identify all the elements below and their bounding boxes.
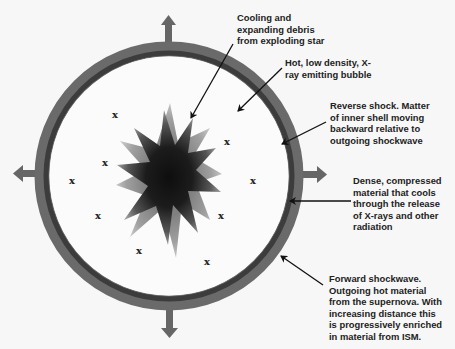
x-mark: x [250, 176, 256, 186]
x-mark: x [204, 257, 210, 267]
arrow-up-icon [161, 15, 176, 44]
label-reverse-shock: Reverse shock. Matter of inner shell mov… [330, 100, 432, 146]
pointer-forward-shock [281, 256, 323, 285]
x-mark: x [136, 246, 142, 256]
label-forward-shock: Forward shockwave. Outgoing hot material… [329, 273, 443, 343]
arrow-down-icon [161, 308, 178, 338]
x-mark: x [218, 211, 224, 221]
x-mark: x [102, 158, 108, 168]
label-dense-material: Dense, compressed material that cools th… [353, 175, 445, 233]
x-mark: x [69, 176, 75, 186]
x-mark: x [112, 110, 118, 120]
label-debris: Cooling and expanding debris from explod… [237, 12, 333, 47]
x-mark: x [95, 211, 101, 221]
x-mark: x [224, 137, 230, 147]
label-bubble: Hot, low density, X-ray emitting bubble [285, 57, 375, 80]
